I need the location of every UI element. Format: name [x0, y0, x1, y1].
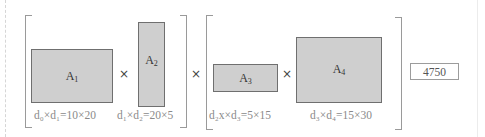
matrix-a1-label: A1 [66, 69, 79, 84]
group-1-right-bracket [180, 15, 187, 128]
matrix-a3-label: A3 [239, 71, 252, 86]
matrix-a3-dims: d₂x×d₃=5×15 [209, 109, 271, 121]
matrix-a1: A1 [31, 49, 113, 103]
group-2-right-bracket [395, 17, 402, 130]
matrix-a4-label: A4 [333, 62, 346, 77]
matrix-a2: A2 [138, 22, 165, 107]
left-guide-line [5, 0, 6, 137]
matrix-a4: A4 [296, 37, 382, 103]
right-guide-line [477, 0, 478, 137]
matrix-a4-dims: d₃×d₄=15×30 [310, 109, 372, 121]
matrix-a2-label: A2 [145, 53, 158, 68]
matrix-a3: A3 [213, 64, 278, 92]
multiply-sign: × [119, 67, 129, 81]
result-box: 4750 [410, 63, 459, 80]
matrix-a1-dims: d₀×d₁=10×20 [34, 109, 96, 121]
matrix-a2-dims: d₁×d₂=20×5 [117, 109, 173, 121]
result-value: 4750 [423, 66, 446, 78]
multiply-sign-between-groups: × [191, 67, 201, 81]
multiply-sign: × [282, 67, 292, 81]
